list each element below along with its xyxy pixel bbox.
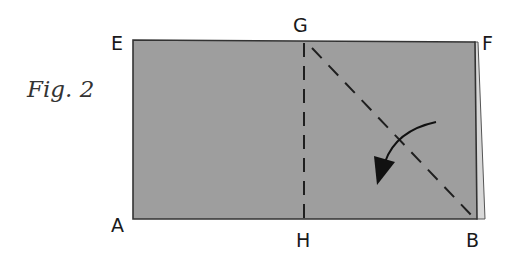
point-label-f: F [482,32,493,54]
point-label-a: A [111,214,124,236]
point-label-h: H [296,229,310,251]
point-label-b: B [466,229,479,251]
figure-caption: Fig. 2 [26,76,94,102]
point-label-g: G [293,14,308,36]
point-label-e: E [111,32,123,54]
origami-fold-diagram: E G F A H B Fig. 2 [0,0,524,257]
